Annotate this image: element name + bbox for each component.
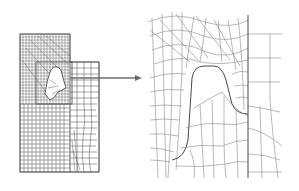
enlarged-right-mesh (248, 34, 282, 178)
enlarged-lower-mesh (176, 92, 248, 178)
mesh-figure (0, 0, 299, 191)
enlarged-mesh-panel (148, 12, 282, 178)
lower-mesh-region (20, 104, 70, 172)
enlarged-cavity-outline (172, 66, 248, 160)
full-mesh-panel (20, 34, 99, 172)
cavity-shape (45, 67, 66, 100)
arrow-head-icon (135, 75, 142, 81)
enlarged-curved-mesh (148, 12, 248, 178)
